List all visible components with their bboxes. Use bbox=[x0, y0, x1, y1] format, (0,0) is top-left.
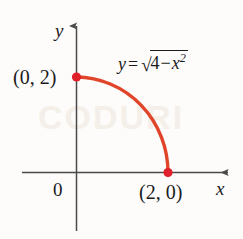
point-marker-x-intercept bbox=[163, 168, 172, 177]
x-axis-label: x bbox=[216, 179, 224, 198]
equation-equals-sign: = bbox=[128, 54, 138, 74]
equation-lhs: y bbox=[118, 54, 126, 74]
equation-label: y=√4−x2 bbox=[118, 51, 188, 73]
y-axis-label: y bbox=[55, 21, 63, 40]
graph-canvas bbox=[0, 0, 243, 239]
equation-radical: √4−x2 bbox=[140, 51, 188, 73]
math-figure: CODURI y x 0 (0, 2) (2, 0) y=√4−x2 bbox=[0, 0, 243, 239]
radicand-variable: x bbox=[172, 53, 180, 73]
radicand-number: 4 bbox=[151, 53, 160, 73]
curve-quarter-circle bbox=[77, 77, 169, 173]
radicand-operator: − bbox=[161, 53, 171, 73]
origin-label: 0 bbox=[53, 180, 63, 199]
equation-radicand: 4−x2 bbox=[150, 50, 188, 72]
point-label-y-intercept: (0, 2) bbox=[13, 67, 56, 87]
point-marker-y-intercept bbox=[72, 72, 81, 81]
point-label-x-intercept: (2, 0) bbox=[139, 182, 182, 202]
radicand-exponent: 2 bbox=[180, 51, 186, 65]
